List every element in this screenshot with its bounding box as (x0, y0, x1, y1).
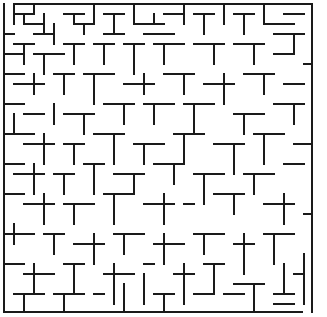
maze-board (0, 0, 327, 317)
maze-entrance (4, 0, 14, 8)
maze-exit (302, 308, 312, 316)
maze-walls (4, 4, 312, 312)
maze-border (4, 4, 312, 312)
